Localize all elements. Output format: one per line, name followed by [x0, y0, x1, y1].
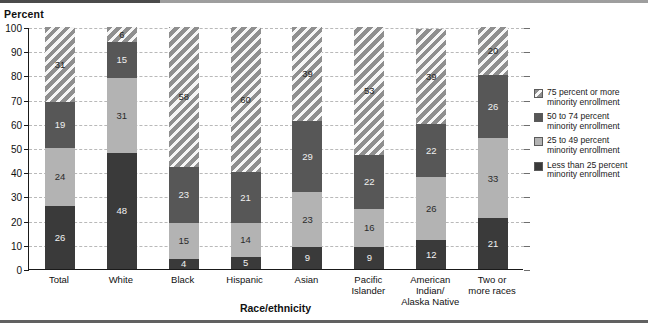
- bar-segment: 39: [416, 29, 446, 123]
- bar-segment: 29: [292, 121, 322, 191]
- bar-value-label: 26: [488, 102, 499, 112]
- legend-label: Less than 25 percentminority enrollment: [547, 161, 627, 180]
- bar-3[interactable]: 5142160: [231, 27, 261, 269]
- stacked-bar-chart: Percent 01020304050607080901002624193148…: [0, 0, 648, 323]
- legend-item[interactable]: 75 percent or moreminority enrollment: [534, 88, 646, 107]
- plot-area: 0102030405060708090100262419314831156415…: [28, 28, 523, 270]
- bar-segment: 23: [169, 167, 199, 223]
- legend-label: 75 percent or moreminority enrollment: [547, 88, 620, 107]
- y-axis-tick: [24, 173, 29, 174]
- bar-segment: 15: [107, 42, 137, 78]
- x-axis-tick-label-line: White: [90, 274, 152, 285]
- bar-segment: 21: [478, 218, 508, 269]
- bar-value-label: 15: [178, 236, 189, 246]
- x-axis-tick-label-line: more races: [461, 285, 523, 296]
- x-axis-tick-label: Pacific Islander: [337, 274, 399, 296]
- legend-item[interactable]: 50 to 74 percentminority enrollment: [534, 112, 646, 131]
- bar-value-label: 16: [364, 223, 375, 233]
- y-axis-tick: [24, 125, 29, 126]
- gridline: [29, 125, 524, 126]
- x-axis-tick-label-line: American: [399, 274, 461, 285]
- bar-value-label: 9: [367, 253, 372, 263]
- bar-segment: 31: [45, 27, 75, 102]
- y-axis-tick-right: [524, 125, 530, 126]
- legend-label: 50 to 74 percentminority enrollment: [547, 112, 620, 131]
- bar-segment: 20: [478, 27, 508, 75]
- bar-segment: 21: [231, 172, 261, 223]
- gridline: [29, 222, 524, 223]
- bar-4[interactable]: 9232939: [292, 27, 322, 269]
- bar-value-label: 33: [488, 174, 499, 184]
- bar-segment: 12: [416, 240, 446, 269]
- bar-segment: 24: [45, 148, 75, 206]
- bar-segment: 39: [292, 27, 322, 121]
- bar-value-label: 9: [305, 253, 310, 263]
- y-axis-tick-label: 10: [11, 240, 22, 251]
- gridline: [29, 246, 524, 247]
- legend-label-line: minority enrollment: [547, 170, 627, 180]
- gridline: [29, 149, 524, 150]
- bar-segment: 5: [231, 257, 261, 269]
- x-axis-tick-label-line: Black: [152, 274, 214, 285]
- bar-value-label: 22: [426, 146, 437, 156]
- bar-6[interactable]: 12262239: [416, 27, 446, 269]
- bar-segment: 31: [107, 78, 137, 153]
- bar-segment: 14: [231, 223, 261, 257]
- bar-value-label: 39: [302, 69, 313, 79]
- legend-item[interactable]: Less than 25 percentminority enrollment: [534, 161, 646, 180]
- y-axis-tick: [24, 222, 29, 223]
- bar-segment: 22: [354, 155, 384, 208]
- bar-7[interactable]: 21332620: [478, 27, 508, 269]
- bar-value-label: 6: [119, 30, 124, 40]
- bar-value-label: 22: [364, 177, 375, 187]
- bar-value-label: 26: [426, 204, 437, 214]
- y-axis-title: Percent: [4, 8, 44, 20]
- gridline: [29, 197, 524, 198]
- x-axis-tick-label: Asian: [276, 274, 338, 285]
- bar-5[interactable]: 9162253: [354, 27, 384, 269]
- y-axis-tick: [24, 76, 29, 77]
- y-axis-tick-label: 60: [11, 119, 22, 130]
- y-axis-tick-right: [524, 246, 530, 247]
- bar-segment: 9: [292, 247, 322, 269]
- bar-segment: 58: [169, 27, 199, 167]
- bar-1[interactable]: 4831156: [107, 27, 137, 269]
- y-axis-tick-right: [524, 52, 530, 53]
- bar-value-label: 20: [488, 46, 499, 56]
- bar-segment: 48: [107, 153, 137, 269]
- chart-legend: 75 percent or moreminority enrollment50 …: [534, 88, 646, 185]
- bar-segment: 15: [169, 223, 199, 259]
- gridline: [29, 28, 524, 29]
- y-axis-tick: [24, 270, 29, 271]
- bar-value-label: 31: [55, 60, 66, 70]
- x-axis-tick-label: AmericanIndian/Alaska Native: [399, 274, 461, 307]
- y-axis-tick: [24, 197, 29, 198]
- legend-item[interactable]: 25 to 49 percentminority enrollment: [534, 136, 646, 155]
- x-axis-tick-label-line: Pacific Islander: [337, 274, 399, 296]
- bar-value-label: 23: [302, 215, 313, 225]
- x-axis-tick-label-line: Alaska Native: [399, 296, 461, 307]
- bar-segment: 9: [354, 247, 384, 269]
- bar-value-label: 48: [117, 206, 128, 216]
- bar-0[interactable]: 26241931: [45, 27, 75, 269]
- y-axis-tick-right: [524, 270, 530, 271]
- y-axis-tick-right: [524, 222, 530, 223]
- legend-swatch: [534, 137, 543, 146]
- bar-value-label: 12: [426, 250, 437, 260]
- bar-value-label: 14: [240, 235, 251, 245]
- bar-value-label: 31: [117, 111, 128, 121]
- bar-2[interactable]: 4152358: [169, 27, 199, 269]
- bar-value-label: 53: [364, 86, 375, 96]
- bar-value-label: 19: [55, 120, 66, 130]
- bar-segment: 4: [169, 259, 199, 269]
- bar-value-label: 23: [178, 190, 189, 200]
- bar-value-label: 26: [55, 233, 66, 243]
- bar-segment: 53: [354, 27, 384, 155]
- y-axis-tick-label: 20: [11, 216, 22, 227]
- bar-value-label: 15: [117, 55, 128, 65]
- bar-segment: 26: [416, 177, 446, 240]
- x-axis-tick-label-line: Total: [28, 274, 90, 285]
- bar-value-label: 29: [302, 152, 313, 162]
- bar-value-label: 5: [243, 258, 248, 268]
- y-axis-tick-right: [524, 28, 530, 29]
